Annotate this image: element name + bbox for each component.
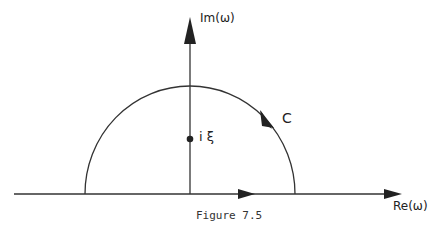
figure-caption: Figure 7.5 [196,209,262,222]
contour-direction-arrow-fill-icon [260,110,274,128]
contour-diagram: Im(ω) Re(ω) i ξ C Figure 7.5 [0,0,447,229]
real-axis-direction-arrow-icon [238,189,255,199]
pole-point [187,136,194,143]
imaginary-axis-arrowhead-icon [184,17,196,44]
imaginary-axis-label: Im(ω) [200,11,235,25]
pole-point-label: i ξ [199,129,214,144]
real-axis-label: Re(ω) [393,199,428,213]
contour-label: C [282,110,292,126]
real-axis-arrowhead-icon [384,189,402,199]
contour-svg [0,0,447,229]
